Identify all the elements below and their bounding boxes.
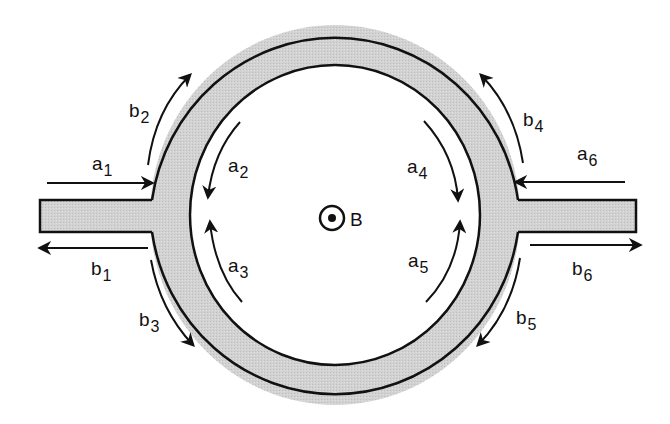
left-port-stub: [40, 200, 165, 232]
right-port-stub: [505, 200, 636, 232]
label-b2: b2: [129, 100, 150, 126]
label-b5: b5: [516, 307, 537, 333]
label-b3: b3: [139, 309, 160, 335]
label-a6: a6: [577, 143, 598, 169]
label-b1: b1: [91, 258, 112, 284]
circulator-diagram: B a1 b1 b2 b3 a2 a3 a4 a5 b4 b5 a6 b6: [0, 0, 670, 424]
label-b6: b6: [572, 258, 593, 284]
field-label-B: B: [350, 209, 363, 230]
label-b4: b4: [523, 109, 544, 135]
waveguide-ring: [40, 25, 636, 405]
label-a1: a1: [92, 153, 113, 179]
ring-inner-boundary: [190, 65, 480, 365]
